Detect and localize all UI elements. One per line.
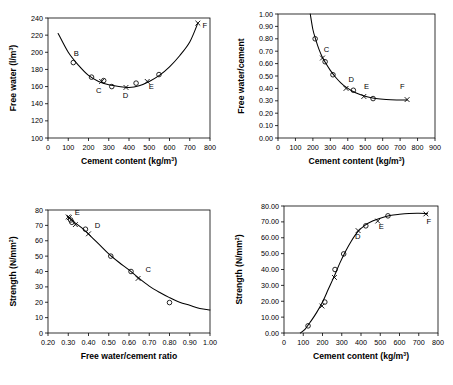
x-tick-label: 700 <box>394 143 406 152</box>
y-tick-label: 50.00 <box>261 249 279 258</box>
x-tick-label: 600 <box>377 143 389 152</box>
y-tick-label: 160 <box>31 82 43 91</box>
point-label-D: D <box>355 232 361 241</box>
x-tick-label: 200 <box>83 143 95 152</box>
x-tick-label: 0.90 <box>183 338 197 347</box>
y-tick-label: 0.00 <box>259 134 273 143</box>
x-tick-label: 200 <box>317 338 329 347</box>
y-tick-label: 0.70 <box>259 47 273 56</box>
x-tick-label: 0 <box>276 143 280 152</box>
x-tick-label: 800 <box>412 143 424 152</box>
x-tick-label: 300 <box>336 338 348 347</box>
y-tick-label: 10 <box>35 313 43 322</box>
panel-bottom-right-svg: 0.0010.0020.0030.0040.0050.0060.0070.008… <box>228 190 453 385</box>
x-tick-label: 0.50 <box>102 338 116 347</box>
y-tick-label: 240 <box>31 14 43 23</box>
x-tick-label: 500 <box>374 338 386 347</box>
x-tick-label: 0.60 <box>122 338 136 347</box>
x-axis-title: Cement content (kg/m3) <box>313 351 409 361</box>
fit-curve <box>300 213 427 333</box>
x-tick-label: 500 <box>359 143 371 152</box>
point-label-E: E <box>379 222 384 231</box>
figure-container: 1001201401601802002202400100200300400500… <box>0 0 453 385</box>
chart-panel-top-left: 1001201401601802002202400100200300400500… <box>0 0 228 190</box>
y-tick-label: 120 <box>31 116 43 125</box>
fit-curve <box>67 216 210 310</box>
point-label-D: D <box>123 91 129 100</box>
x-tick-label: 600 <box>394 338 406 347</box>
data-point-cross <box>86 231 91 236</box>
plot-frame <box>278 14 435 138</box>
data-point-cross <box>195 21 200 26</box>
x-tick-label: 300 <box>103 143 115 152</box>
plot-frame <box>284 206 438 333</box>
point-label-F: F <box>400 82 405 91</box>
x-axis-title: Cement content (kg/m3) <box>81 156 177 166</box>
data-point-circle <box>134 81 139 86</box>
x-tick-label: 800 <box>204 143 216 152</box>
x-tick-label: 700 <box>413 338 425 347</box>
x-tick-label: 400 <box>123 143 135 152</box>
y-tick-label: 60.00 <box>261 233 279 242</box>
y-tick-label: 60 <box>35 236 43 245</box>
x-tick-label: 0.40 <box>82 338 96 347</box>
y-axis-title: Free water/cement <box>236 38 246 114</box>
x-tick-label: 800 <box>432 338 444 347</box>
x-tick-label: 100 <box>62 143 74 152</box>
y-tick-label: 0.00 <box>265 329 279 338</box>
panel-bottom-left-svg: 010203040506070800.200.300.400.500.600.7… <box>0 190 228 385</box>
y-tick-label: 40 <box>35 267 43 276</box>
x-tick-label: 500 <box>143 143 155 152</box>
point-label-E: E <box>149 82 154 91</box>
y-tick-label: 10.00 <box>261 313 279 322</box>
y-tick-label: 20 <box>35 298 43 307</box>
x-tick-label: 0 <box>46 143 50 152</box>
x-tick-label: 1.00 <box>203 338 217 347</box>
panel-top-left-svg: 1001201401601802002202400100200300400500… <box>0 0 228 190</box>
chart-panel-top-right: 0.000.100.200.300.400.500.600.700.800.90… <box>228 0 453 190</box>
x-axis-title: Free water/cement ratio <box>81 351 177 361</box>
x-tick-label: 100 <box>289 143 301 152</box>
y-tick-label: 20.00 <box>261 297 279 306</box>
x-tick-label: 400 <box>342 143 354 152</box>
x-tick-label: 200 <box>307 143 319 152</box>
point-label-C: C <box>145 265 151 274</box>
x-tick-label: 400 <box>355 338 367 347</box>
y-tick-label: 30.00 <box>261 281 279 290</box>
y-tick-label: 0.10 <box>259 121 273 130</box>
plot-frame <box>48 18 210 138</box>
y-tick-label: 1.00 <box>259 10 273 19</box>
y-tick-label: 220 <box>31 31 43 40</box>
x-tick-label: 900 <box>429 143 441 152</box>
y-tick-label: 0.90 <box>259 22 273 31</box>
data-point-circle <box>323 300 328 305</box>
y-tick-label: 100 <box>31 134 43 143</box>
y-tick-label: 0.50 <box>259 72 273 81</box>
point-label-C: C <box>324 45 330 54</box>
y-tick-label: 80 <box>35 206 43 215</box>
y-tick-label: 30 <box>35 282 43 291</box>
x-tick-label: 0.30 <box>61 338 75 347</box>
y-tick-label: 200 <box>31 48 43 57</box>
x-tick-label: 700 <box>184 143 196 152</box>
x-tick-label: 100 <box>297 338 309 347</box>
y-axis-title: Strength (N/mm2) <box>8 236 18 306</box>
chart-panel-bottom-left: 010203040506070800.200.300.400.500.600.7… <box>0 190 228 385</box>
x-tick-label: 0.80 <box>163 338 177 347</box>
y-tick-label: 180 <box>31 65 43 74</box>
y-tick-label: 80.00 <box>261 202 279 211</box>
x-tick-label: 300 <box>324 143 336 152</box>
data-point-circle <box>109 84 114 89</box>
y-tick-label: 0 <box>39 329 43 338</box>
y-tick-label: 50 <box>35 252 43 261</box>
y-tick-label: 0.40 <box>259 84 273 93</box>
fit-curve <box>58 23 198 87</box>
point-label-E: E <box>75 208 80 217</box>
point-label-E: E <box>364 82 369 91</box>
data-point-circle <box>71 60 76 65</box>
y-tick-label: 140 <box>31 99 43 108</box>
y-tick-label: 0.80 <box>259 34 273 43</box>
point-label-C: C <box>96 86 102 95</box>
x-axis-title: Cement content (kg/m3) <box>308 156 404 166</box>
point-label-D: D <box>349 75 355 84</box>
